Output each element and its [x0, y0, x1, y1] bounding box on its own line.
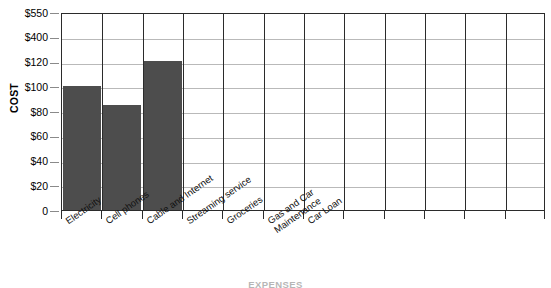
y-axis-tick-mark: [50, 38, 59, 39]
bar-chart: COST $550$400$120$100$80$60$40$200 Elect…: [0, 0, 551, 288]
y-axis-tick-mark: [50, 137, 59, 138]
y-axis-tick-label: $20: [4, 181, 48, 192]
y-axis-tick-mark: [50, 162, 59, 163]
vertical-gridline: [264, 14, 265, 210]
horizontal-gridline: [62, 64, 544, 65]
bar: [144, 61, 182, 210]
y-axis-tick-label: $80: [4, 107, 48, 118]
y-axis-tick-label: $400: [4, 32, 48, 43]
bar: [63, 86, 101, 210]
vertical-gridline: [385, 14, 386, 210]
y-axis-tick-mark: [50, 87, 59, 88]
vertical-gridline: [344, 14, 345, 210]
y-axis-tick-label: 0: [4, 206, 48, 217]
horizontal-gridline: [62, 39, 544, 40]
vertical-gridline: [425, 14, 426, 210]
horizontal-gridline: [62, 88, 544, 89]
vertical-gridline: [304, 14, 305, 210]
y-axis-tick-label: $550: [4, 8, 48, 19]
y-axis-tick-mark: [50, 63, 59, 64]
y-axis-tick-label: $60: [4, 131, 48, 142]
y-axis-tick-mark: [50, 13, 59, 14]
x-axis-title: EXPENSES: [0, 279, 551, 288]
y-axis-tick-mark: [50, 112, 59, 113]
y-axis-tick-mark: [50, 186, 59, 187]
vertical-gridline: [183, 14, 184, 210]
x-axis-category-labels: ElectricityCell phonesCable and Internet…: [61, 218, 545, 278]
vertical-gridline: [223, 14, 224, 210]
vertical-gridline: [506, 14, 507, 210]
y-axis-tick-label: $40: [4, 156, 48, 167]
y-axis-tick-labels: $550$400$120$100$80$60$40$200: [0, 0, 48, 288]
vertical-gridline: [465, 14, 466, 210]
y-axis-tick-mark: [50, 211, 59, 212]
plot-area: [61, 13, 545, 211]
y-axis-tick-label: $120: [4, 57, 48, 68]
y-axis-tick-label: $100: [4, 82, 48, 93]
